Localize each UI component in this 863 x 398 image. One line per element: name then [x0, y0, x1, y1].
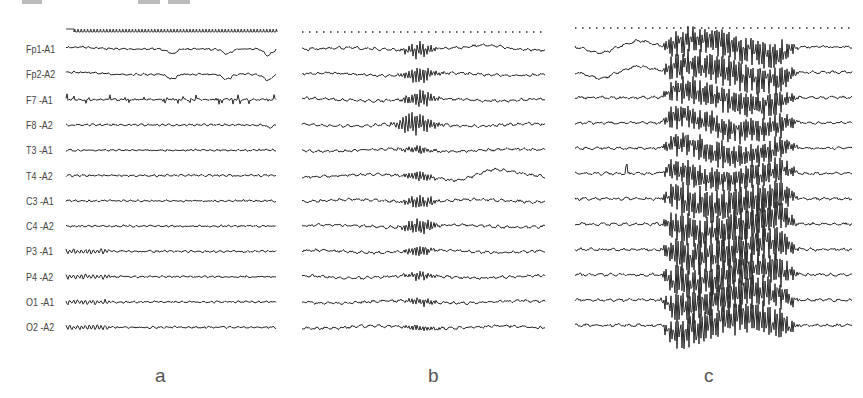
eeg-trace [302, 246, 545, 256]
eeg-trace [302, 325, 545, 331]
eeg-trace [66, 71, 276, 80]
eeg-trace [302, 112, 545, 135]
eeg-trace [66, 174, 276, 177]
eeg-trace [575, 49, 852, 95]
eeg-trace [66, 149, 276, 152]
eeg-trace [302, 195, 545, 207]
eeg-trace [302, 68, 545, 83]
eeg-trace [302, 90, 545, 107]
eeg-trace [302, 271, 545, 281]
panel-label-a: a [155, 365, 166, 387]
eeg-trace [66, 29, 277, 32]
eeg-trace [66, 299, 276, 305]
eeg-trace [302, 41, 545, 59]
eeg-trace [66, 249, 276, 255]
panel-label-b: b [428, 365, 439, 387]
eeg-trace [302, 168, 545, 182]
eeg-trace [575, 106, 852, 144]
eeg-trace [66, 200, 276, 202]
eeg-trace [66, 325, 276, 330]
eeg-trace [575, 300, 852, 349]
eeg-trace [66, 124, 276, 129]
eeg-traces [0, 0, 863, 398]
eeg-trace [575, 76, 852, 119]
eeg-trace [66, 46, 276, 56]
eeg-trace [575, 225, 852, 275]
eeg-trace [575, 181, 852, 223]
eeg-trace [575, 133, 852, 169]
eeg-trace [66, 225, 276, 228]
eeg-trace [575, 199, 852, 249]
eeg-trace [66, 274, 276, 279]
eeg-trace [302, 298, 545, 307]
panel-label-c: c [704, 365, 714, 387]
eeg-trace [575, 26, 852, 68]
eeg-trace [66, 94, 276, 105]
eeg-trace [575, 158, 852, 192]
eeg-trace [302, 219, 545, 235]
eeg-trace [302, 146, 545, 154]
